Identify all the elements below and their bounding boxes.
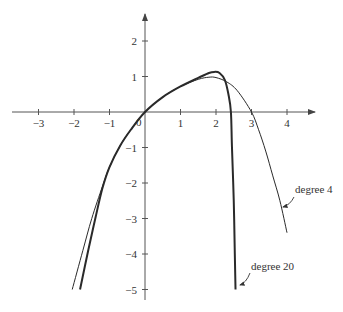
annotation-arrow-icon xyxy=(283,197,294,207)
y-tick-label: −2 xyxy=(125,177,137,189)
degree-4-label: degree 4 xyxy=(295,183,333,195)
degree-20-label: degree 20 xyxy=(251,260,295,272)
axes xyxy=(12,14,315,300)
axis-ticks: −3−2−10123421−1−2−3−4−5 xyxy=(33,35,291,296)
x-tick-label: 1 xyxy=(178,117,184,129)
y-tick-label: −1 xyxy=(125,142,137,154)
x-tick-label: −2 xyxy=(68,117,80,129)
annotation-arrow-icon xyxy=(240,273,250,285)
degree-20-curve xyxy=(80,72,235,290)
y-tick-label: −3 xyxy=(125,213,137,225)
x-tick-label: 3 xyxy=(249,117,255,129)
y-tick-label: 1 xyxy=(132,71,138,83)
x-tick-label: 4 xyxy=(284,117,290,129)
x-tick-label: 2 xyxy=(213,117,219,129)
y-tick-label: −5 xyxy=(125,284,137,296)
y-tick-label: −4 xyxy=(125,248,137,260)
x-tick-label: −3 xyxy=(33,117,45,129)
x-tick-label: −1 xyxy=(104,117,116,129)
curve-annotations: degree 4degree 20 xyxy=(240,183,333,285)
y-tick-label: 2 xyxy=(132,35,138,47)
chart-canvas: −3−2−10123421−1−2−3−4−5 degree 4degree 2… xyxy=(0,0,343,312)
series-curves xyxy=(72,72,287,290)
